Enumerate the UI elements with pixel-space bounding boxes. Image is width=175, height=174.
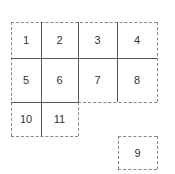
cell-label: 4 xyxy=(134,34,140,46)
cell-label: 2 xyxy=(56,34,62,46)
cell-3: 3 xyxy=(78,22,117,58)
cell-5: 5 xyxy=(11,58,41,102)
cell-4: 4 xyxy=(117,22,157,58)
cell-7: 7 xyxy=(78,58,117,102)
cell-label: 5 xyxy=(23,74,29,86)
cell-2: 2 xyxy=(41,22,78,58)
cell-label: 11 xyxy=(54,113,65,125)
top-edge-dashed xyxy=(11,22,157,23)
cell-10: 10 xyxy=(11,102,41,136)
right-edge-row3-dashed xyxy=(78,102,79,136)
row2-row3-divider xyxy=(11,102,78,103)
numbered-grid-diagram: 1 2 3 4 5 6 7 8 10 11 9 xyxy=(0,0,175,174)
col1-col2-divider xyxy=(41,22,42,136)
cell9-bottom-edge xyxy=(118,169,157,170)
cell-label: 6 xyxy=(56,74,62,86)
right-edge-dashed xyxy=(157,22,158,102)
col3-col4-divider xyxy=(117,22,118,102)
cell-11: 11 xyxy=(41,102,78,136)
bottom-edge-row2-dashed xyxy=(78,102,157,103)
cell-label: 1 xyxy=(23,34,29,46)
left-edge-dashed xyxy=(11,22,12,136)
cell-label: 7 xyxy=(94,74,100,86)
cell9-left-edge xyxy=(118,136,119,169)
cell-label: 10 xyxy=(20,113,32,125)
cell-6: 6 xyxy=(41,58,78,102)
bottom-edge-row3-dashed xyxy=(11,136,78,137)
row1-row2-divider xyxy=(11,58,157,59)
cell-label: 8 xyxy=(134,74,140,86)
cell-label: 3 xyxy=(94,34,100,46)
cell9-top-edge xyxy=(118,136,157,137)
cell-8: 8 xyxy=(117,58,157,102)
cell9-right-edge xyxy=(157,136,158,169)
cell-label: 9 xyxy=(134,147,140,159)
col2-col3-divider xyxy=(78,22,79,102)
cell-1: 1 xyxy=(11,22,41,58)
cell-9: 9 xyxy=(118,136,157,169)
